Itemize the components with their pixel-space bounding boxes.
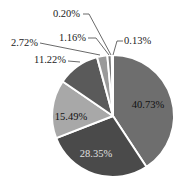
leader-line [83,14,111,55]
slice-label: 11.22% [34,54,66,65]
slice-label: 40.73% [132,99,165,110]
pie-chart: 40.73%28.35%15.49%11.22%2.72%1.16%0.20%0… [0,0,181,183]
leader-line [88,38,109,55]
slice-label: 0.20% [53,8,80,19]
slice-label: 15.49% [55,111,88,122]
leader-line [68,61,80,62]
slice-label: 0.13% [124,35,151,46]
slice-label: 2.72% [11,37,38,48]
pie-slice [113,55,114,116]
slice-label: 1.16% [59,32,86,43]
leader-line [113,41,123,55]
slice-label: 28.35% [80,148,113,159]
